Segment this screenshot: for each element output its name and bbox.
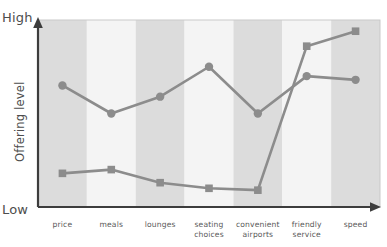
y-axis-title: Offering level xyxy=(13,81,27,162)
data-point-marker[interactable] xyxy=(156,92,164,100)
data-point-marker[interactable] xyxy=(352,27,360,35)
data-point-marker[interactable] xyxy=(205,63,213,71)
x-axis-category-label: speed xyxy=(344,220,368,229)
data-point-marker[interactable] xyxy=(254,109,262,117)
x-axis-category-label: seatingchoices xyxy=(194,220,224,239)
data-point-marker[interactable] xyxy=(107,166,115,174)
data-point-marker[interactable] xyxy=(59,170,67,178)
data-point-marker[interactable] xyxy=(303,72,311,80)
y-axis-high-label: High xyxy=(2,10,33,25)
chart-container: High Low Offering level pricemealslounge… xyxy=(0,0,387,247)
plot-band xyxy=(331,20,380,207)
plot-band xyxy=(185,20,234,207)
x-axis-category-label: lounges xyxy=(145,220,176,229)
data-point-marker[interactable] xyxy=(107,109,115,117)
x-axis-category-labels: pricemealsloungesseatingchoicesconvenien… xyxy=(53,220,368,239)
y-axis-low-label: Low xyxy=(2,202,28,217)
data-point-marker[interactable] xyxy=(303,42,311,50)
x-axis-category-label: friendlyservice xyxy=(292,220,322,239)
data-point-marker[interactable] xyxy=(351,76,359,84)
data-point-marker[interactable] xyxy=(156,179,164,187)
x-axis-category-label: convenientairports xyxy=(236,220,280,239)
data-point-marker[interactable] xyxy=(254,186,262,194)
data-point-marker[interactable] xyxy=(58,81,66,89)
data-point-marker[interactable] xyxy=(205,185,213,193)
plot-band xyxy=(38,20,87,207)
plot-background-bands xyxy=(38,20,380,207)
chart-canvas: High Low Offering level pricemealslounge… xyxy=(0,0,387,247)
x-axis-category-label: meals xyxy=(100,220,124,229)
x-axis-category-label: price xyxy=(53,220,73,229)
